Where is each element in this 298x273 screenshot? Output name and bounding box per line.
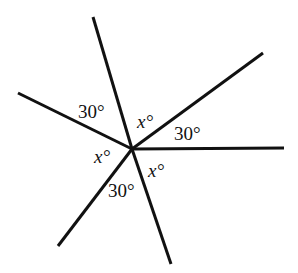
angle-label-x-left: x° [93,146,110,167]
ray-top [93,17,132,149]
angle-label-x-lower-right: x° [147,160,164,181]
angle-diagram: 30°x°30°x°x°30° [0,0,298,273]
angle-label-x-top: x° [136,111,153,132]
angle-label-30-bottom: 30° [108,180,135,201]
rays-group [18,17,284,264]
ray-upper-left [18,93,132,149]
angle-label-30-upper-left: 30° [78,101,105,122]
angle-label-30-right: 30° [174,123,201,144]
ray-right [132,148,284,149]
labels-group: 30°x°30°x°x°30° [78,101,201,201]
